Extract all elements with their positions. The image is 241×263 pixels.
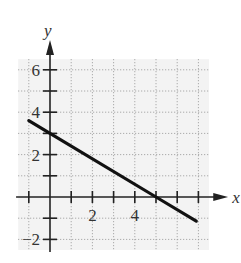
y-tick-label: 4 — [32, 103, 41, 122]
x-tick-label: 4 — [131, 206, 140, 225]
y-axis-arrow-icon — [46, 40, 54, 55]
y-tick-label: −2 — [22, 230, 40, 249]
x-tick-label: 2 — [88, 206, 97, 225]
line-chart: 24642−2 x y — [0, 0, 241, 263]
y-axis-label: y — [42, 21, 52, 40]
y-tick-label: 6 — [32, 61, 41, 80]
x-axis-arrow-icon — [213, 193, 228, 201]
x-axis-label: x — [231, 188, 240, 207]
y-tick-label: 2 — [32, 146, 41, 165]
